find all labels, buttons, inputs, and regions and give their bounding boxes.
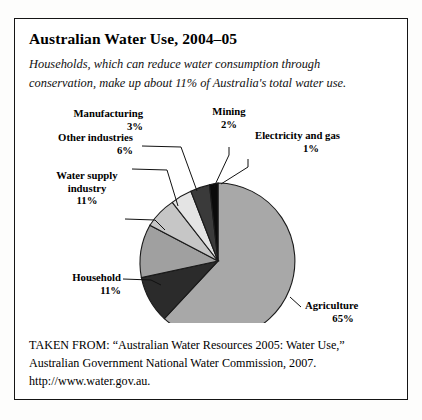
leader-line-mining xyxy=(214,147,229,187)
label-household-pct: 11% xyxy=(47,284,121,297)
label-other-industries-pct: 6% xyxy=(39,144,133,157)
label-water-supply-text: Water supply xyxy=(56,169,117,181)
figure-frame: Australian Water Use, 2004–05 Households… xyxy=(14,18,408,400)
label-agriculture-text: Agriculture xyxy=(305,299,358,311)
figure-subtitle: Households, which can reduce water consu… xyxy=(29,55,381,93)
label-household: Household 11% xyxy=(47,271,121,296)
label-electricity-pct: 1% xyxy=(255,142,367,155)
label-water-supply-text2: industry xyxy=(49,182,125,195)
leader-line-manufacturing xyxy=(142,146,197,191)
label-household-text: Household xyxy=(72,271,121,283)
label-manufacturing-text: Manufacturing xyxy=(74,107,143,119)
label-mining-pct: 2% xyxy=(205,118,253,131)
label-mining-text: Mining xyxy=(212,105,245,117)
label-agriculture: Agriculture 65% xyxy=(305,299,381,324)
label-electricity-text: Electricity and gas xyxy=(255,129,340,141)
page-title: Australian Water Use, 2004–05 xyxy=(29,30,237,48)
source-citation: TAKEN FROM: “Australian Water Resources … xyxy=(29,337,395,391)
label-other-industries-text: Other industries xyxy=(58,131,133,143)
label-electricity-and-gas: Electricity and gas 1% xyxy=(255,129,367,154)
label-other-industries: Other industries 6% xyxy=(39,131,133,156)
pie-slices xyxy=(140,183,295,323)
pie-chart: Manufacturing 3% Other industries 6% Wat… xyxy=(15,111,407,323)
label-manufacturing: Manufacturing 3% xyxy=(61,107,143,132)
label-agriculture-pct: 65% xyxy=(305,312,381,325)
label-water-supply-pct: 11% xyxy=(49,194,125,207)
leader-line-agriculture xyxy=(290,297,301,307)
label-water-supply-industry: Water supply industry 11% xyxy=(49,169,125,207)
figure-page: Australian Water Use, 2004–05 Households… xyxy=(0,0,422,420)
label-mining: Mining 2% xyxy=(205,105,253,130)
leader-line-other-industries xyxy=(132,169,178,206)
